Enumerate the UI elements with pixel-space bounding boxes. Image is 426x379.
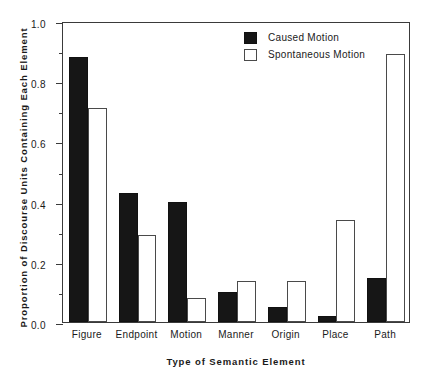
y-tick-major: 0.8 (56, 83, 63, 84)
x-tick-label-path: Path (374, 329, 396, 340)
legend-item-caused-motion: Caused Motion (244, 29, 365, 46)
x-tick-label-endpoint: Endpoint (116, 329, 158, 340)
legend-label-spontaneous-motion: Spontaneous Motion (268, 49, 365, 60)
bar-endpoint-caused-motion (119, 193, 138, 322)
x-tick-label-motion: Motion (170, 329, 202, 340)
y-tick-label: 0.0 (31, 320, 46, 331)
legend-label-caused-motion: Caused Motion (268, 32, 339, 43)
y-tick-major: 1.0 (56, 23, 63, 24)
bar-chart-figure: Proportion of Discourse Units Containing… (0, 0, 426, 379)
y-tick-minor (59, 234, 63, 235)
y-tick-label: 0.2 (31, 259, 46, 270)
bar-path-caused-motion (367, 278, 386, 322)
legend-swatch-open-square (244, 49, 257, 61)
bar-path-spontaneous-motion (386, 54, 405, 322)
x-axis-title: Type of Semantic Element (62, 356, 410, 367)
bar-series-container (63, 23, 409, 322)
y-axis-title: Proportion of Discourse Units Containing… (18, 18, 29, 338)
y-tick-major: 0.2 (56, 264, 63, 265)
bar-manner-spontaneous-motion (237, 281, 256, 322)
bar-origin-caused-motion (268, 307, 287, 322)
legend-swatch-filled-square (244, 32, 257, 44)
y-tick-major: 0.4 (56, 204, 63, 205)
bar-endpoint-spontaneous-motion (138, 235, 157, 322)
y-tick-label: 1.0 (31, 19, 46, 30)
y-tick-label: 0.6 (31, 139, 46, 150)
y-tick-minor (59, 53, 63, 54)
x-tick-label-origin: Origin (271, 329, 299, 340)
y-tick-major: 0.6 (56, 143, 63, 144)
legend-item-spontaneous-motion: Spontaneous Motion (244, 46, 365, 63)
y-tick-minor (59, 113, 63, 114)
bar-figure-caused-motion (69, 57, 88, 322)
x-tick-label-manner: Manner (218, 329, 254, 340)
x-tick-label-place: Place (322, 329, 349, 340)
plot-area: 0.00.20.40.60.81.0 Caused Motion Spontan… (62, 22, 410, 323)
bar-place-caused-motion (318, 316, 337, 322)
y-tick-minor (59, 174, 63, 175)
bar-motion-caused-motion (168, 202, 187, 322)
legend: Caused Motion Spontaneous Motion (244, 29, 365, 63)
y-tick-major: 0.0 (56, 324, 63, 325)
bar-origin-spontaneous-motion (287, 281, 306, 322)
x-tick-label-figure: Figure (72, 329, 102, 340)
bar-manner-caused-motion (218, 292, 237, 322)
y-tick-minor (59, 294, 63, 295)
bar-motion-spontaneous-motion (187, 298, 206, 322)
bar-figure-spontaneous-motion (88, 108, 107, 322)
y-tick-label: 0.8 (31, 79, 46, 90)
y-tick-label: 0.4 (31, 199, 46, 210)
bar-place-spontaneous-motion (336, 220, 355, 322)
